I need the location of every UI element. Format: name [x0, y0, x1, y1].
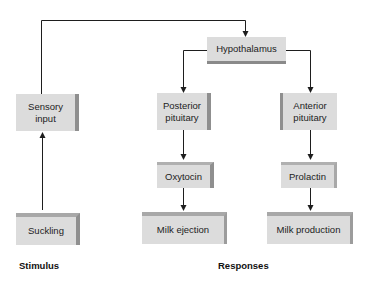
node-posterior-pituitary: Posterior pituitary	[157, 93, 211, 130]
node-label: Suckling	[28, 225, 64, 237]
node-label: Hypothalamus	[216, 43, 277, 55]
node-label: Milk production	[277, 224, 341, 236]
node-oxytocin: Oxytocin	[157, 162, 214, 188]
arrowhead-icon	[40, 132, 46, 138]
arrowhead-icon	[181, 154, 187, 160]
node-label: Prolactin	[289, 171, 326, 183]
node-label: pituitary	[293, 112, 326, 124]
node-hypothalamus: Hypothalamus	[207, 37, 286, 64]
node-prolactin: Prolactin	[281, 162, 337, 188]
node-anterior-pituitary: Anterior pituitary	[280, 93, 337, 130]
node-label: Sensory	[28, 101, 63, 113]
section-label-stimulus: Stimulus	[19, 260, 59, 271]
node-label: input	[28, 113, 63, 125]
node-milk-ejection: Milk ejection	[142, 212, 227, 244]
arrowhead-icon	[308, 154, 314, 160]
node-label: Posterior	[163, 100, 201, 112]
node-suckling: Suckling	[16, 213, 80, 245]
node-milk-production: Milk production	[267, 212, 353, 244]
arrowhead-icon	[181, 205, 187, 211]
node-label: pituitary	[163, 112, 201, 124]
node-label: Oxytocin	[165, 171, 202, 183]
node-label: Anterior	[293, 100, 326, 112]
node-sensory-input: Sensory input	[16, 94, 79, 131]
arrowhead-icon	[308, 205, 314, 211]
node-label: Milk ejection	[157, 224, 209, 236]
section-label-responses: Responses	[218, 260, 269, 271]
